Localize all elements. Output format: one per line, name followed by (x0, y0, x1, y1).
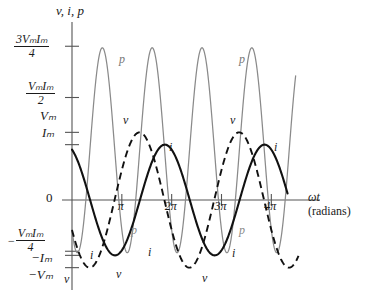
voltage-curve-label: v (202, 271, 207, 286)
power-curve-label: p (239, 52, 245, 67)
current-curve-label: i (169, 140, 172, 155)
x-tick-label-4pi: 4π (264, 199, 276, 214)
y-tick-label-im: Iₘ (42, 126, 54, 139)
x-axis-title-units: (radians) (308, 204, 351, 218)
current-curve-label: i (90, 248, 93, 263)
y-tick-denominator: 2 (26, 93, 55, 107)
curve-group (72, 48, 299, 268)
y-axis-title: v, i, p (56, 4, 84, 17)
y-tick-label-negative-vm: −Vₘ (28, 268, 53, 281)
x-axis-title: ωt (radians) (308, 190, 351, 218)
y-tick-numerator: 3VₘIₘ (14, 33, 49, 46)
plot-canvas (0, 0, 372, 302)
y-tick-numerator: VₘIₘ (16, 227, 45, 240)
x-tick-label-2pi: 2π (165, 199, 177, 214)
power-curve-label: p (239, 223, 245, 238)
y-tick-label-vmim-over-2: VₘIₘ 2 (26, 80, 55, 107)
current-curve-label: i (232, 246, 235, 261)
current-curve-label: i (274, 140, 277, 155)
x-axis-title-omega-t: ωt (308, 190, 320, 204)
power-curve-label: p (119, 52, 125, 67)
y-tick-label-3vmim-over-4: 3VₘIₘ 4 (14, 33, 49, 60)
ac-power-waveform-figure: v, i, p 3VₘIₘ 4 VₘIₘ 2 Vₘ Iₘ 0 − VₘIₘ 4 … (0, 0, 372, 302)
voltage-curve-label: v (116, 267, 121, 282)
voltage-curve-label: v (123, 113, 128, 128)
current-curve-label: i (148, 245, 151, 260)
y-tick-label-vm: Vₘ (40, 109, 56, 122)
y-tick-denominator: 4 (14, 46, 49, 60)
axes-group (62, 22, 320, 290)
power-curve-label: p (131, 223, 137, 238)
voltage-curve-label: v (230, 113, 235, 128)
x-tick-label-3pi: 3π (214, 199, 226, 214)
voltage-curve-label: v (64, 272, 69, 287)
y-tick-numerator: VₘIₘ (26, 80, 55, 93)
y-tick-label-zero: 0 (46, 191, 53, 204)
y-tick-label-negative-im: −Iₘ (31, 251, 52, 264)
x-tick-label-pi: π (118, 199, 124, 214)
minus-sign: − (8, 235, 16, 247)
power-curve (72, 48, 296, 253)
